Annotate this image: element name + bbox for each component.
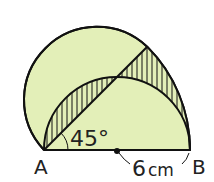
point-label-a: A bbox=[34, 155, 48, 179]
point-label-b: B bbox=[192, 155, 206, 179]
dimension-bracket-left bbox=[119, 153, 130, 164]
dimension-bracket-right bbox=[182, 153, 189, 164]
angle-label: 45° bbox=[70, 126, 109, 151]
length-label-number: 6 bbox=[132, 156, 146, 181]
geometry-diagram: 45° A B 6 cm bbox=[0, 0, 214, 182]
length-label-unit: cm bbox=[148, 160, 174, 180]
